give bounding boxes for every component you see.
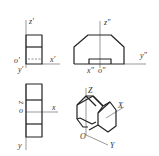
iso-z-label: Z	[88, 86, 93, 95]
y-label: y	[17, 141, 22, 150]
front-view-outline	[74, 35, 124, 64]
orthographic-projection-figure: z' o' x' y' z" y" x" o" z o x y	[0, 0, 159, 156]
x-double-prime-label: x"	[86, 66, 95, 75]
top-view-bottom-left: z o x y	[17, 84, 58, 150]
z-label: z	[17, 100, 26, 105]
side-view-outline	[26, 35, 42, 64]
y-double-prime-label: y"	[139, 51, 148, 60]
z-prime-label: z'	[28, 17, 34, 26]
o-label: o	[19, 106, 23, 115]
iso-back-lower	[77, 105, 88, 127]
iso-o-label: O	[80, 132, 86, 141]
z-double-prime-label: z"	[103, 18, 111, 27]
o-double-prime-label: o"	[98, 66, 106, 75]
x-prime-label: x'	[49, 55, 56, 64]
side-view-top-left: z' o' x' y'	[14, 17, 60, 74]
y-prime-label: y'	[17, 65, 24, 74]
x-label: x	[51, 103, 56, 112]
isometric-view-bottom-right: Z X O Y	[77, 86, 124, 150]
iso-x-label: X	[117, 101, 124, 110]
o-prime-label: o'	[14, 56, 20, 65]
iso-bottom-edge	[89, 125, 98, 130]
iso-chamfer-line	[98, 102, 110, 113]
top-view-outline	[26, 84, 42, 137]
iso-y-axis	[86, 135, 108, 145]
front-view-top-right: z" y" x" o"	[74, 18, 148, 75]
iso-y-label: Y	[110, 141, 116, 150]
